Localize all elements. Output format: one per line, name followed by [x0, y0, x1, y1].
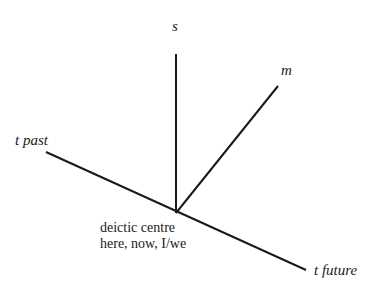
axis-m-line — [176, 86, 278, 213]
axis-t-past-label: t past — [15, 132, 48, 149]
deictic-diagram: s m t past t future deictic centre here,… — [0, 0, 367, 291]
axis-t-future-label: t future — [314, 262, 357, 279]
axis-s-label: s — [172, 18, 178, 35]
deictic-centre-label: deictic centre here, now, I/we — [100, 220, 186, 252]
deictic-centre-line1: deictic centre — [100, 220, 186, 236]
deictic-centre-line2: here, now, I/we — [100, 236, 186, 252]
axis-m-label: m — [281, 62, 292, 79]
